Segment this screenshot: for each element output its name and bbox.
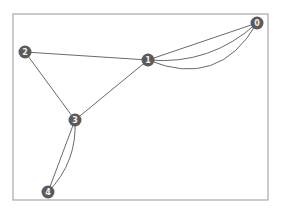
node-2: 2 — [19, 46, 32, 59]
node-4: 4 — [42, 186, 55, 199]
node-label: 1 — [145, 56, 151, 65]
edge-1-3 — [75, 60, 148, 120]
plot-frame — [13, 14, 268, 200]
node-label: 4 — [45, 188, 51, 197]
edge-2-3 — [25, 52, 75, 120]
edge-layer — [25, 23, 257, 192]
node-label: 0 — [254, 19, 260, 28]
node-label: 2 — [22, 48, 28, 57]
graph-canvas: 01234 — [0, 0, 281, 209]
edge-1-0 — [148, 23, 257, 69]
node-layer: 01234 — [19, 17, 264, 199]
node-1: 1 — [142, 54, 155, 67]
node-label: 3 — [72, 116, 78, 125]
edge-2-1 — [25, 52, 148, 60]
node-3: 3 — [69, 114, 82, 127]
node-0: 0 — [251, 17, 264, 30]
